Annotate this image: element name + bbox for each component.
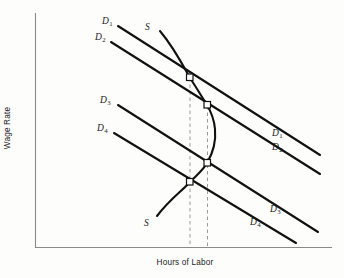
demand-curve-d1 <box>118 26 320 155</box>
labor-supply-demand-figure: D1 D2 D3 D4 D1 D2 D3 D4 S S Wage Rate Ho… <box>0 0 344 278</box>
y-axis-title: Wage Rate <box>3 107 12 149</box>
label-demand-2-left: D2 <box>95 33 105 43</box>
x-axis-title: Hours of Labor <box>157 258 214 267</box>
label-demand-4-left: D4 <box>97 124 107 134</box>
label-demand-1-left: D1 <box>102 17 112 27</box>
label-demand-4-right: D4 <box>250 218 260 228</box>
equilibrium-marker-e3 <box>204 160 211 167</box>
label-demand-1-right: D1 <box>272 129 282 139</box>
equilibrium-marker-e4 <box>187 179 194 186</box>
equilibrium-marker-e2 <box>204 102 211 109</box>
demand-curve-d2 <box>111 42 320 174</box>
label-demand-3-left: D3 <box>100 96 110 106</box>
label-demand-3-right: D3 <box>270 205 280 215</box>
demand-curve-d4 <box>114 133 296 243</box>
equilibrium-marker-e1 <box>187 74 194 81</box>
demand-curve-d3 <box>118 105 318 232</box>
label-supply-top: S <box>145 23 150 33</box>
label-supply-bottom: S <box>144 219 149 229</box>
label-demand-2-right: D2 <box>272 143 282 153</box>
chart-canvas <box>0 0 344 278</box>
